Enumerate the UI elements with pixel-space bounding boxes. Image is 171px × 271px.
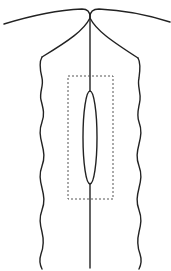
garment-diagram bbox=[0, 0, 171, 271]
top-arc-right bbox=[90, 9, 170, 22]
left-shoulder-line bbox=[42, 18, 90, 57]
left-wavy-edge bbox=[40, 57, 44, 269]
oval-opening bbox=[83, 91, 97, 184]
right-shoulder-line bbox=[90, 18, 138, 58]
diagram-canvas bbox=[0, 0, 171, 271]
top-arc-left bbox=[4, 9, 90, 24]
right-wavy-edge bbox=[137, 58, 141, 269]
